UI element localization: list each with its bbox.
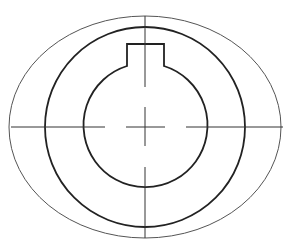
keyed-hub-drawing	[0, 0, 296, 249]
drawing-canvas	[0, 0, 296, 249]
